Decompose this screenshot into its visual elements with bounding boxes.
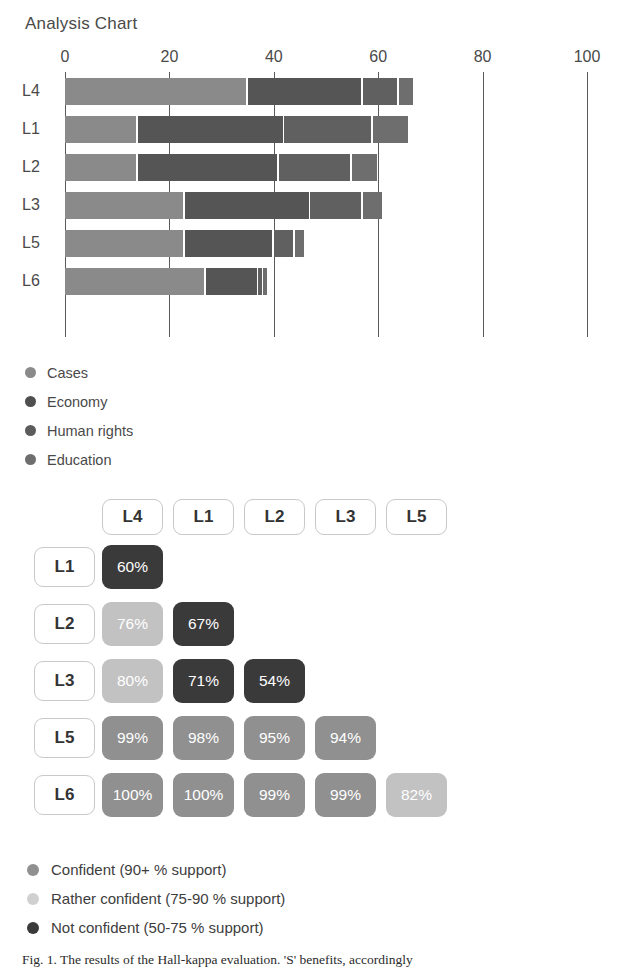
matrix-cell[interactable]: 82% (386, 773, 447, 817)
bar-segment[interactable] (295, 230, 304, 257)
matrix-cell[interactable]: 80% (102, 659, 163, 703)
matrix-row: L6100%100%99%99%82% (0, 767, 619, 824)
matrix-cell[interactable]: 98% (173, 716, 234, 760)
matrix-row: L599%98%95%94% (0, 710, 619, 767)
legend-swatch-icon (25, 367, 36, 378)
bar-track (65, 192, 383, 219)
legend-swatch-icon (25, 396, 36, 407)
bar-segment[interactable] (363, 192, 382, 219)
matrix-cell[interactable]: 100% (102, 773, 163, 817)
confidence-legend-item[interactable]: Confident (90+ % support) (27, 855, 447, 884)
matrix-cell[interactable]: 94% (315, 716, 376, 760)
bar-row-label: L5 (22, 234, 40, 252)
bar-segment[interactable] (65, 154, 136, 181)
x-axis-tick-labels: 020406080100 (0, 48, 619, 72)
legend-item[interactable]: Cases (25, 358, 325, 387)
bar-row-label: L1 (22, 120, 40, 138)
bar-chart: 020406080100 L4L1L2L3L5L6 (0, 48, 619, 343)
legend-item[interactable]: Human rights (25, 416, 325, 445)
x-axis-tick-label: 60 (369, 48, 387, 66)
legend-item-label: Education (47, 452, 112, 468)
matrix-row-header[interactable]: L3 (34, 661, 95, 701)
confidence-legend-label: Rather confident (75-90 % support) (51, 890, 285, 907)
matrix-column-header[interactable]: L4 (102, 499, 163, 535)
bar-segment[interactable] (138, 116, 283, 143)
bar-segment[interactable] (65, 192, 183, 219)
bar-segment[interactable] (65, 78, 246, 105)
matrix-row-header[interactable]: L2 (34, 604, 95, 644)
figure-caption: Fig. 1. The results of the Hall-kappa ev… (22, 952, 612, 968)
legend-item-label: Cases (47, 365, 88, 381)
bar-segment[interactable] (185, 230, 272, 257)
bar-segment[interactable] (399, 78, 413, 105)
bar-segment[interactable] (65, 116, 136, 143)
legend-item-label: Human rights (47, 423, 133, 439)
matrix-cell[interactable]: 95% (244, 716, 305, 760)
confidence-legend: Confident (90+ % support)Rather confiden… (27, 855, 447, 942)
matrix-row-header[interactable]: L5 (34, 718, 95, 758)
bar-segment[interactable] (263, 268, 267, 295)
legend-item[interactable]: Education (25, 445, 325, 474)
bar-row: L4 (0, 76, 619, 106)
x-axis-tick-label: 100 (574, 48, 601, 66)
matrix-column-headers: L4L1L2L3L5 (0, 495, 619, 539)
matrix-cell[interactable]: 100% (173, 773, 234, 817)
bar-row-label: L4 (22, 82, 40, 100)
bar-segment[interactable] (310, 192, 361, 219)
matrix-row: L380%71%54% (0, 653, 619, 710)
matrix-cell[interactable]: 71% (173, 659, 234, 703)
legend-swatch-icon (27, 864, 39, 876)
confidence-matrix: L4L1L2L3L5 L160%L276%67%L380%71%54%L599%… (0, 495, 619, 824)
bar-segment[interactable] (373, 116, 408, 143)
confidence-legend-label: Confident (90+ % support) (51, 861, 227, 878)
bar-row: L2 (0, 152, 619, 182)
bar-segment[interactable] (248, 78, 361, 105)
bar-row: L5 (0, 228, 619, 258)
bar-segment[interactable] (185, 192, 309, 219)
x-axis-tick-label: 80 (474, 48, 492, 66)
legend-swatch-icon (27, 922, 39, 934)
bar-track (65, 268, 269, 295)
bar-track (65, 116, 410, 143)
legend-item-label: Economy (47, 394, 107, 410)
bar-segment[interactable] (258, 268, 262, 295)
bar-chart-rows: L4L1L2L3L5L6 (0, 72, 619, 337)
matrix-cell[interactable]: 76% (102, 602, 163, 646)
matrix-cell[interactable]: 99% (102, 716, 163, 760)
bar-row-label: L2 (22, 158, 40, 176)
bar-segment[interactable] (206, 268, 257, 295)
bar-segment[interactable] (65, 268, 204, 295)
matrix-body: L160%L276%67%L380%71%54%L599%98%95%94%L6… (0, 539, 619, 824)
bar-segment[interactable] (284, 116, 371, 143)
matrix-row-header[interactable]: L6 (34, 775, 95, 815)
matrix-cell[interactable]: 54% (244, 659, 305, 703)
matrix-cell[interactable]: 99% (315, 773, 376, 817)
legend-item[interactable]: Economy (25, 387, 325, 416)
bar-track (65, 154, 378, 181)
bar-segment[interactable] (279, 154, 350, 181)
matrix-column-header[interactable]: L3 (315, 499, 376, 535)
bar-row-label: L3 (22, 196, 40, 214)
bar-segment[interactable] (274, 230, 293, 257)
bar-chart-legend: CasesEconomyHuman rightsEducation (25, 358, 325, 474)
bar-segment[interactable] (65, 230, 183, 257)
matrix-row: L160% (0, 539, 619, 596)
page-title: Analysis Chart (25, 14, 137, 34)
bar-segment[interactable] (138, 154, 277, 181)
matrix-cell[interactable]: 99% (244, 773, 305, 817)
matrix-cell[interactable]: 67% (173, 602, 234, 646)
bar-segment[interactable] (352, 154, 377, 181)
matrix-cell[interactable]: 60% (102, 545, 163, 589)
matrix-row-header[interactable]: L1 (34, 547, 95, 587)
confidence-legend-item[interactable]: Rather confident (75-90 % support) (27, 884, 447, 913)
bar-row: L6 (0, 266, 619, 296)
confidence-legend-label: Not confident (50-75 % support) (51, 919, 264, 936)
matrix-column-header[interactable]: L2 (244, 499, 305, 535)
x-axis-tick-label: 40 (265, 48, 283, 66)
confidence-legend-item[interactable]: Not confident (50-75 % support) (27, 913, 447, 942)
matrix-column-header[interactable]: L5 (386, 499, 447, 535)
x-axis-tick-label: 0 (61, 48, 70, 66)
matrix-row: L276%67% (0, 596, 619, 653)
bar-segment[interactable] (363, 78, 398, 105)
matrix-column-header[interactable]: L1 (173, 499, 234, 535)
